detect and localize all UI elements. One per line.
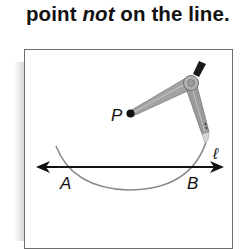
compass-icon <box>130 61 209 143</box>
point-p <box>127 110 135 118</box>
label-a: A <box>59 174 71 193</box>
label-line-l: ℓ <box>212 145 219 162</box>
label-b: B <box>187 174 198 193</box>
label-p: P <box>111 106 123 125</box>
